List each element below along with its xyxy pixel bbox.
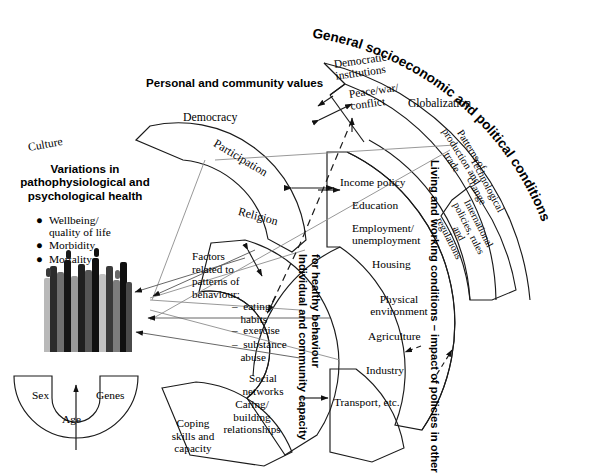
- band-title-living-working-conditions: Living and working conditions – impact o…: [428, 160, 444, 460]
- band-title-individual-community-capacity: Individual and community capacity for he…: [298, 254, 322, 454]
- diagram-canvas: Variations in pathophysiological and psy…: [0, 0, 602, 474]
